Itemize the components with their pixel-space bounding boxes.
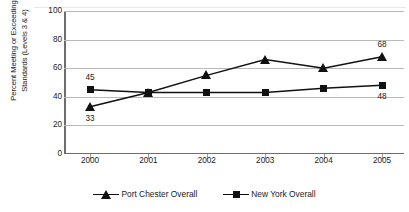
data-label-new-york-overall-2000: 45: [70, 73, 110, 82]
legend-label-port-chester-overall: Port Chester Overall: [121, 189, 197, 199]
y-axis-tick-labels: 020406080100: [18, 11, 62, 154]
x-tick-label-2000: 2000: [70, 156, 110, 165]
chart-legend: Port Chester Overall New York Overall: [0, 188, 409, 200]
data-point-port-chester-overall-2002: [201, 70, 211, 79]
data-point-port-chester-overall-2004: [318, 63, 328, 72]
legend-item-port-chester-overall[interactable]: Port Chester Overall: [93, 188, 197, 200]
series-line-port-chester-overall: [90, 57, 382, 107]
legend-label-new-york-overall: New York Overall: [251, 189, 315, 199]
data-point-new-york-overall-2002: [203, 89, 210, 96]
data-point-port-chester-overall-2003: [260, 55, 270, 64]
plot-area: 33684548: [64, 11, 404, 154]
title-divider: [34, 7, 406, 8]
data-label-port-chester-overall-2005: 68: [362, 40, 402, 49]
data-point-port-chester-overall-2005: [377, 52, 387, 61]
data-point-new-york-overall-2005: [379, 82, 386, 89]
x-tick-label-2001: 2001: [128, 156, 168, 165]
series-lines: [64, 11, 404, 154]
y-tick-label-80: 80: [22, 35, 62, 44]
y-tick-label-0: 0: [22, 149, 62, 158]
y-tick-label-100: 100: [22, 6, 62, 15]
data-point-new-york-overall-2003: [262, 89, 269, 96]
x-tick-label-2002: 2002: [187, 156, 227, 165]
series-line-new-york-overall: [90, 85, 382, 92]
x-tick-label-2004: 2004: [304, 156, 344, 165]
triangle-marker-icon: [93, 188, 119, 200]
data-label-new-york-overall-2005: 48: [362, 92, 402, 101]
y-tick-label-60: 60: [22, 63, 62, 72]
legend-item-new-york-overall[interactable]: New York Overall: [223, 188, 315, 200]
data-label-port-chester-overall-2000: 33: [70, 114, 110, 123]
data-point-new-york-overall-2001: [145, 89, 152, 96]
x-tick-label-2005: 2005: [362, 156, 402, 165]
x-tick-label-2003: 2003: [245, 156, 285, 165]
square-marker-icon: [223, 188, 249, 200]
data-point-new-york-overall-2004: [320, 85, 327, 92]
y-tick-label-40: 40: [22, 92, 62, 101]
y-tick-label-20: 20: [22, 120, 62, 129]
data-point-new-york-overall-2000: [87, 86, 94, 93]
chart-container: Percent Meeting or Exceeding Standards (…: [0, 0, 409, 212]
x-axis-tick-labels: 200020012002200320042005: [64, 156, 404, 172]
data-point-port-chester-overall-2000: [85, 102, 95, 111]
